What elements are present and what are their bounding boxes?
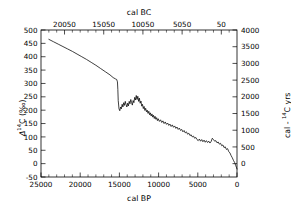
top-tick-label: 10050 xyxy=(131,20,154,29)
right-tick-label: 3500 xyxy=(241,42,260,51)
right-tick-label: 4000 xyxy=(241,26,260,35)
left-tick-label: 500 xyxy=(24,26,38,35)
right-axis-title-holder: cal - 14C yrs xyxy=(271,76,285,140)
top-tick-label: 15050 xyxy=(92,20,115,29)
bottom-tick-label: 5000 xyxy=(189,180,208,189)
top-axis-title: cal BC xyxy=(127,8,152,17)
figure-container: 2500020000150001000050000cal BP200501505… xyxy=(0,0,291,214)
right-tick-label: 0 xyxy=(241,159,246,168)
right-tick-label: 2500 xyxy=(241,76,260,85)
bottom-tick-label: 20000 xyxy=(69,180,92,189)
left-tick-label: 300 xyxy=(24,79,38,88)
bottom-axis-title: cal BP xyxy=(127,194,151,203)
left-tick-label: 50 xyxy=(28,146,38,155)
right-tick-label: 1500 xyxy=(241,109,260,118)
left-axis-superscript: 14 xyxy=(16,124,22,131)
left-axis-title-holder: Δ14C (‰) xyxy=(5,78,19,138)
right-tick-label: 500 xyxy=(241,143,255,152)
left-axis-title: Δ14C (‰) xyxy=(17,100,26,136)
right-axis-superscript: 14 xyxy=(281,112,287,119)
left-tick-label: 350 xyxy=(24,66,38,75)
right-axis-title: cal - 14C yrs xyxy=(282,93,291,138)
bottom-tick-label: 15000 xyxy=(108,180,131,189)
top-tick-label: 5050 xyxy=(173,20,192,29)
left-tick-label: -50 xyxy=(26,173,38,182)
data-series-0 xyxy=(49,39,237,169)
bottom-tick-label: 0 xyxy=(235,180,240,189)
plot-frame xyxy=(41,30,237,177)
top-tick-label: 50 xyxy=(217,20,227,29)
left-tick-label: 450 xyxy=(24,39,38,48)
bottom-tick-label: 10000 xyxy=(147,180,170,189)
left-axis-units: C (‰) xyxy=(18,100,27,124)
right-tick-label: 1000 xyxy=(241,126,260,135)
right-tick-label: 2000 xyxy=(241,92,260,101)
right-tick-label: 3000 xyxy=(241,59,260,68)
radiocarbon-delta14c-chart: 2500020000150001000050000cal BP200501505… xyxy=(0,0,291,214)
left-tick-label: 400 xyxy=(24,52,38,61)
right-axis-prefix: cal - xyxy=(283,119,291,138)
left-axis-delta-symbol: Δ xyxy=(18,131,27,136)
left-tick-label: 0 xyxy=(33,159,38,168)
right-axis-suffix: C yrs xyxy=(283,93,291,113)
top-tick-label: 20050 xyxy=(53,20,76,29)
